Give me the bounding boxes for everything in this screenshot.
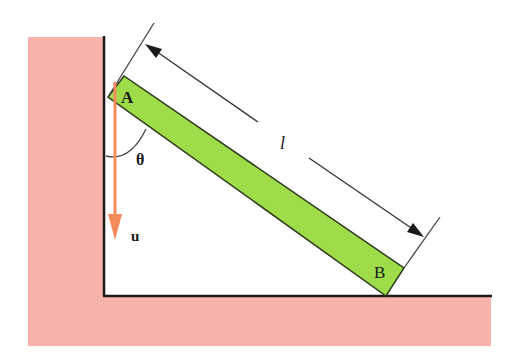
label-length-l: l bbox=[280, 134, 285, 152]
label-point-b: B bbox=[374, 264, 385, 281]
label-point-a: A bbox=[121, 89, 133, 106]
diagram-canvas bbox=[0, 0, 517, 362]
label-velocity-u: u bbox=[131, 229, 139, 244]
label-angle-theta: θ bbox=[136, 152, 144, 168]
dimension-arrowhead-a bbox=[145, 44, 162, 58]
dimension-arrowhead-b bbox=[407, 223, 424, 237]
velocity-arrowhead bbox=[108, 214, 122, 240]
rod-ab bbox=[108, 76, 404, 296]
extension-line-b bbox=[404, 217, 440, 268]
